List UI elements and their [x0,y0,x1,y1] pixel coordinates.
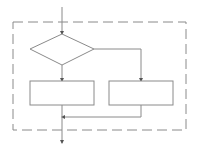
dashed-boundary [13,22,186,130]
merge-arrow [62,105,141,117]
process-box-right [109,81,173,105]
process-box-left [30,81,94,105]
decision-diamond [30,34,94,65]
flowchart-diagram [0,0,198,152]
branch-right-arrow [94,49,141,81]
